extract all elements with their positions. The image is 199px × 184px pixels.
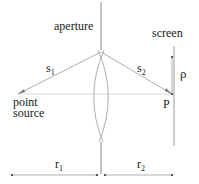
label-s1: s1 <box>46 61 55 77</box>
label-source: source <box>13 106 44 120</box>
r1-endpoint-right <box>96 174 98 176</box>
ray-s2-arrowhead <box>165 88 172 94</box>
aperture-diffraction-diagram: aperture screen s1 s2 ρ point source P r… <box>0 0 199 184</box>
rho-endpoint-top <box>171 56 173 58</box>
point-P-dot <box>171 93 173 95</box>
label-s1-sub: 1 <box>51 68 55 77</box>
label-r1-sub: 1 <box>59 164 63 173</box>
label-aperture: aperture <box>54 19 93 33</box>
label-rho: ρ <box>180 66 187 81</box>
label-s2: s2 <box>137 61 146 77</box>
lens-arc-left <box>94 50 104 142</box>
r2-endpoint-left <box>104 174 106 176</box>
label-r2-sub: 2 <box>141 164 145 173</box>
r2-endpoint-right <box>171 174 173 176</box>
r1-endpoint-left <box>11 174 13 176</box>
ray-s1 <box>18 52 101 94</box>
label-screen: screen <box>152 26 183 40</box>
label-P: P <box>163 97 170 111</box>
ray-s1-arrowhead <box>18 89 25 94</box>
label-s2-sub: 2 <box>142 68 146 77</box>
label-r2: r2 <box>137 157 145 173</box>
lens-arc-right <box>98 50 108 142</box>
label-r1: r1 <box>55 157 63 173</box>
